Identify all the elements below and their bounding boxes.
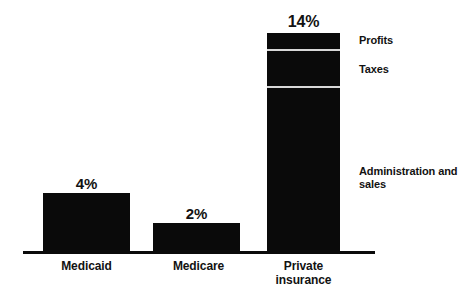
segment-divider-taxes-administration — [267, 86, 340, 88]
value-label-medicaid: 4% — [43, 175, 130, 192]
category-label-private-line1: Private — [248, 259, 359, 273]
segment-divider-profits-taxes — [267, 49, 340, 51]
category-label-medicare: Medicare — [140, 259, 257, 273]
bar-private-insurance — [267, 33, 340, 252]
bar-chart: 4% 2% 14% Profits Taxes Administration a… — [0, 0, 462, 300]
segment-label-taxes: Taxes — [359, 63, 389, 76]
value-label-private-insurance: 14% — [267, 13, 340, 31]
x-axis-line — [23, 251, 375, 254]
category-label-private-insurance: Private insurance — [248, 259, 359, 287]
segment-label-administration: Administration and sales — [359, 165, 459, 191]
category-label-private-line2: insurance — [248, 273, 359, 287]
segment-label-profits: Profits — [359, 34, 393, 47]
bar-medicaid — [43, 193, 130, 252]
category-label-medicaid: Medicaid — [28, 259, 145, 273]
bar-medicare — [153, 223, 240, 252]
value-label-medicare: 2% — [153, 205, 240, 222]
